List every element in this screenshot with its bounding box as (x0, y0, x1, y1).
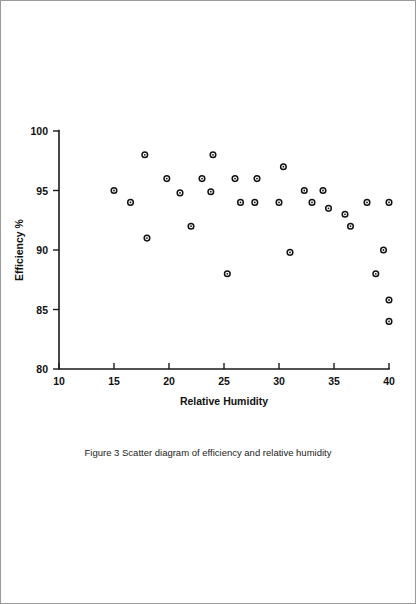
data-point (225, 271, 231, 277)
data-point (320, 188, 326, 194)
scatter-plot: 80859095100 10152025303540 Efficiency % … (1, 1, 415, 603)
data-point-center (388, 202, 390, 204)
tick-marks (53, 131, 389, 369)
data-point (208, 189, 214, 195)
x-tick-label: 15 (108, 375, 120, 387)
data-point-center (383, 249, 385, 251)
data-point (386, 319, 392, 325)
data-point-center (146, 237, 148, 239)
data-point-center (210, 191, 212, 193)
data-point-center (234, 178, 236, 180)
x-tick-label: 25 (218, 375, 230, 387)
x-tick-label: 30 (273, 375, 285, 387)
data-point (111, 188, 117, 194)
data-point-center (256, 178, 258, 180)
data-point-center (289, 251, 291, 253)
data-point (381, 247, 387, 253)
data-point-center (212, 154, 214, 156)
data-point-center (328, 207, 330, 209)
data-point-center (254, 202, 256, 204)
y-tick-label: 80 (36, 363, 48, 375)
data-point-center (303, 190, 305, 192)
data-point-center (388, 299, 390, 301)
data-point (254, 176, 260, 182)
data-point-center (240, 202, 242, 204)
y-tick-label: 85 (36, 304, 48, 316)
data-point-center (130, 202, 132, 204)
data-point (326, 206, 332, 212)
data-point-center (278, 202, 280, 204)
figure-caption: Figure 3 Scatter diagram of efficiency a… (85, 447, 332, 458)
data-points (111, 152, 392, 324)
data-point (281, 164, 287, 170)
data-point (232, 176, 238, 182)
x-tick-label: 20 (163, 375, 175, 387)
axes (59, 131, 389, 370)
data-point (164, 176, 170, 182)
data-point-center (311, 202, 313, 204)
data-point-center (190, 225, 192, 227)
data-point (287, 250, 293, 256)
y-axis-title: Efficiency % (13, 218, 25, 281)
data-point-center (144, 154, 146, 156)
data-point (142, 152, 148, 158)
data-point-center (322, 190, 324, 192)
scatter-figure: 80859095100 10152025303540 Efficiency % … (1, 1, 415, 603)
x-axis-tick-labels: 10152025303540 (53, 375, 395, 387)
data-point (188, 223, 194, 229)
data-point (144, 235, 150, 241)
data-point (348, 223, 354, 229)
data-point (373, 271, 379, 277)
data-point-center (226, 273, 228, 275)
data-point-center (388, 321, 390, 323)
data-point-center (166, 178, 168, 180)
x-tick-label: 10 (53, 375, 65, 387)
data-point-center (375, 273, 377, 275)
data-point (342, 212, 348, 218)
data-point (364, 200, 370, 206)
data-point-center (113, 190, 115, 192)
axis-spine (59, 131, 389, 370)
data-point-center (179, 192, 181, 194)
y-tick-label: 100 (30, 125, 48, 137)
data-point (309, 200, 315, 206)
data-point (199, 176, 205, 182)
x-axis-title: Relative Humidity (180, 395, 268, 407)
data-point (177, 190, 183, 196)
x-tick-label: 35 (328, 375, 340, 387)
data-point (386, 297, 392, 303)
x-tick-label: 40 (383, 375, 395, 387)
data-point (238, 200, 244, 206)
data-point-center (283, 166, 285, 168)
data-point-center (201, 178, 203, 180)
figure-page: 80859095100 10152025303540 Efficiency % … (0, 0, 416, 604)
data-point (276, 200, 282, 206)
y-tick-label: 95 (36, 185, 48, 197)
data-point-center (344, 213, 346, 215)
data-point (210, 152, 216, 158)
data-point (128, 200, 134, 206)
data-point (252, 200, 258, 206)
y-tick-label: 90 (36, 244, 48, 256)
y-axis-tick-labels: 80859095100 (30, 125, 48, 375)
data-point (386, 200, 392, 206)
data-point (302, 188, 308, 194)
data-point-center (366, 202, 368, 204)
data-point-center (350, 225, 352, 227)
